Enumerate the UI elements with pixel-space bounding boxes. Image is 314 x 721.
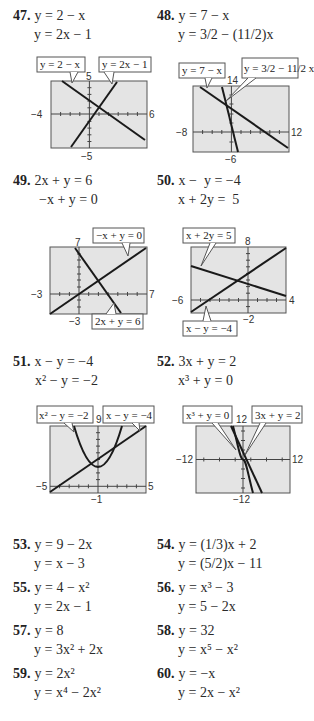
callout-label: y = 2x − 1	[102, 58, 147, 70]
equation-2: x³ + y = 0	[157, 371, 236, 390]
xmin-label: −5	[36, 481, 48, 492]
callout-label: y = 2 − x	[40, 58, 80, 70]
ymin-label: −3	[69, 316, 81, 327]
callout-label: y = 7 − x	[182, 64, 222, 76]
equation-1: y = 4 − x²	[35, 580, 90, 595]
ymax-label: 14	[227, 75, 239, 86]
problem-number: 51.	[13, 352, 31, 371]
equation-1: y = −x	[179, 666, 216, 681]
callout-label: x + 2y = 5	[186, 229, 232, 241]
ymin-label: −2	[243, 314, 255, 325]
problem-number: 58.	[157, 621, 175, 640]
callout-label: y = 3/2 − 11/2 x	[244, 62, 314, 74]
callout-label: 2x + y = 6	[95, 315, 141, 327]
xmin-label: −6	[172, 295, 184, 306]
equation-2: y = 2x − x²	[157, 683, 240, 702]
problem-47: 47.y = 2 − x y = 2x − 1	[13, 6, 92, 44]
equation-2: y = x − 3	[13, 554, 92, 573]
problem-50: 50.x − y = −4 x + 2y = 5	[157, 171, 241, 209]
xmin-label: −4	[31, 109, 43, 120]
problem-number: 47.	[13, 6, 31, 25]
problem-number: 53.	[13, 535, 31, 554]
equation-2: y = 2x − 1	[13, 597, 92, 616]
problem-53: 53.y = 9 − 2x y = x − 3	[13, 535, 92, 573]
equation-1: y = x³ − 3	[179, 580, 234, 595]
equation-2: y = x⁴ − 2x²	[13, 683, 101, 702]
callout-label: x³ + y = 0	[186, 409, 230, 421]
ymax-label: 5	[86, 71, 92, 82]
problem-57: 57.y = 8 y = 3x² + 2x	[13, 621, 103, 659]
problem-60: 60.y = −x y = 2x − x²	[157, 664, 240, 702]
graph-49: −3 7 7 −3 −x + y = 0 2x + y = 6	[0, 215, 160, 330]
graph-51: −5 5 9 −1 x² − y = −2 x − y = −4	[0, 395, 160, 505]
equation-1: y = 2 − x	[35, 8, 86, 23]
equation-1: y = 9 − 2x	[35, 537, 93, 552]
xmax-label: 4	[289, 295, 295, 306]
equation-1: 3x + y = 2	[179, 354, 237, 369]
problem-49: 49.2x + y = 6 −x + y = 0	[13, 171, 98, 209]
equation-1: y = 8	[35, 623, 64, 638]
equation-1: y = (1/3)x + 2	[179, 537, 257, 552]
equation-2: y = (5/2)x − 11	[157, 554, 263, 573]
graph-47: −4 6 5 −5 y = 2 − x y = 2x − 1	[0, 55, 160, 167]
problem-51: 51.x − y = −4 x² − y = −2	[13, 352, 98, 390]
equation-2: −x + y = 0	[13, 190, 98, 209]
problem-number: 52.	[157, 352, 175, 371]
problem-56: 56.y = x³ − 3 y = 5 − 2x	[157, 578, 236, 616]
problem-number: 57.	[13, 621, 31, 640]
problem-number: 60.	[157, 664, 175, 683]
equation-1: y = 7 − x	[179, 8, 230, 23]
graph-52: −12 12 12 −12 x³ + y = 0 3x + y = 2	[155, 395, 314, 505]
callout-label: x − y = −4	[106, 409, 153, 421]
xmin-label: −3	[31, 289, 43, 300]
problem-54: 54.y = (1/3)x + 2 y = (5/2)x − 11	[157, 535, 263, 573]
problem-59: 59.y = 2x² y = x⁴ − 2x²	[13, 664, 101, 702]
ymin-label: −1	[91, 494, 103, 505]
ymin-label: −12	[233, 494, 250, 505]
problem-58: 58.y = 32 y = x⁵ − x²	[157, 621, 238, 659]
ymax-label: 9	[96, 414, 102, 425]
callout-label: 3x + y = 2	[255, 409, 300, 421]
equation-2: x² − y = −2	[13, 371, 98, 390]
ymax-label: 8	[245, 236, 251, 247]
equation-2: y = x⁵ − x²	[157, 640, 238, 659]
equation-1: x − y = −4	[35, 354, 94, 369]
equation-1: x − y = −4	[179, 173, 241, 188]
xmax-label: 5	[148, 481, 154, 492]
problem-number: 50.	[157, 171, 175, 190]
problem-number: 55.	[13, 578, 31, 597]
graph-50: −6 4 8 −2 x + 2y = 5 x − y = −4	[155, 215, 314, 330]
equation-2: y = 3/2 − (11/2)x	[157, 25, 273, 44]
xmin-label: −8	[176, 127, 188, 138]
xmax-label: 12	[292, 454, 304, 465]
xmin-label: −12	[176, 454, 193, 465]
graph-48: −8 12 14 −6 y = 7 − x y = 3/2 − 11/2 x	[155, 55, 314, 167]
equation-2: y = 5 − 2x	[157, 597, 236, 616]
callout-label: x − y = −4	[186, 322, 233, 334]
equation-2: y = 2x − 1	[13, 25, 92, 44]
ymin-label: −6	[225, 154, 237, 165]
problem-number: 56.	[157, 578, 175, 597]
equation-1: y = 2x²	[35, 666, 75, 681]
problem-number: 54.	[157, 535, 175, 554]
equation-2: x + 2y = 5	[157, 190, 241, 209]
callout-label: −x + y = 0	[96, 229, 143, 241]
callout-label: x² − y = −2	[39, 409, 88, 421]
ymax-label: 7	[75, 237, 81, 248]
problem-48: 48.y = 7 − x y = 3/2 − (11/2)x	[157, 6, 273, 44]
ymin-label: −5	[81, 151, 93, 162]
ymax-label: 12	[236, 414, 248, 425]
problem-number: 49.	[13, 171, 31, 190]
equation-1: 2x + y = 6	[35, 173, 93, 188]
problem-55: 55.y = 4 − x² y = 2x − 1	[13, 578, 92, 616]
equation-1: y = 32	[179, 623, 215, 638]
xmax-label: 12	[291, 127, 303, 138]
equation-2: y = 3x² + 2x	[13, 640, 103, 659]
problem-52: 52.3x + y = 2 x³ + y = 0	[157, 352, 236, 390]
problem-number: 48.	[157, 6, 175, 25]
problem-number: 59.	[13, 664, 31, 683]
